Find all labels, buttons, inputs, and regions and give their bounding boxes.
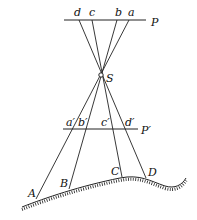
ray-c-C (92, 20, 122, 177)
label-plane-p-prime: P′ (140, 124, 151, 137)
label-plane-p: P (150, 16, 159, 29)
label-ground-c: C (111, 165, 120, 178)
label-ground-b: B (59, 177, 68, 190)
terrain-line (22, 177, 186, 207)
label-b: b (115, 6, 122, 19)
projection-diagram: d c b a P S a′ b′ c′ d′ P′ A B C D (0, 0, 197, 220)
label-center-s: S (106, 72, 114, 85)
label-c-prime: c′ (101, 116, 110, 129)
label-ground-a: A (27, 187, 36, 200)
label-a: a (128, 6, 135, 19)
label-b-prime: b′ (78, 116, 88, 129)
projection-center-point (99, 73, 103, 77)
terrain-hatching (22, 179, 186, 209)
label-c: c (89, 6, 95, 19)
label-ground-d: D (147, 166, 157, 179)
label-a-prime: a′ (66, 116, 76, 129)
label-d: d (74, 6, 81, 19)
ray-b-B (69, 20, 117, 189)
label-d-prime: d′ (125, 116, 135, 129)
ray-d-D (79, 20, 146, 178)
